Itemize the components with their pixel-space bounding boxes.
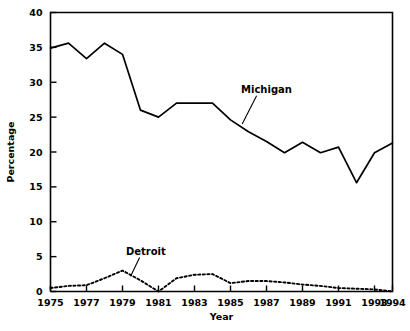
x-axis-tick-labels: 1975197719791981198319851987198919911993… <box>37 297 406 308</box>
x-axis-ticks <box>51 286 393 292</box>
y-tick-label: 10 <box>29 216 43 227</box>
series-group <box>51 43 393 291</box>
annotation-group: Michigan Detroit <box>126 84 292 276</box>
x-tick-label: 1977 <box>73 297 99 308</box>
x-tick-label: 1983 <box>181 297 207 308</box>
x-tick-label: 1989 <box>289 297 315 308</box>
y-axis-tick-labels: 0510152025303540 <box>29 7 43 297</box>
chart-canvas: 0510152025303540 19751977197919811983198… <box>0 0 410 331</box>
line-chart: 0510152025303540 19751977197919811983198… <box>0 0 410 331</box>
x-tick-label: 1987 <box>253 297 279 308</box>
x-tick-label: 1991 <box>325 297 351 308</box>
detroit-leader-line <box>131 258 140 277</box>
y-tick-label: 25 <box>29 112 42 123</box>
y-tick-label: 0 <box>36 286 43 297</box>
y-tick-label: 40 <box>29 7 43 18</box>
x-tick-label: 1994 <box>379 297 406 308</box>
y-tick-label: 5 <box>36 251 43 262</box>
y-tick-label: 20 <box>29 147 43 158</box>
y-tick-label: 30 <box>29 77 43 88</box>
x-tick-label: 1985 <box>217 297 243 308</box>
x-axis-title: Year <box>209 311 234 322</box>
y-axis-title: Percentage <box>5 121 16 182</box>
x-tick-label: 1979 <box>109 297 135 308</box>
michigan-series-label: Michigan <box>241 84 292 95</box>
detroit-series-label: Detroit <box>126 246 166 257</box>
michigan-leader-line <box>242 96 256 124</box>
y-axis-ticks <box>51 13 57 292</box>
x-tick-label: 1981 <box>145 297 171 308</box>
y-tick-label: 15 <box>29 181 42 192</box>
series-line-michigan <box>51 43 393 183</box>
x-tick-label: 1975 <box>37 297 63 308</box>
y-tick-label: 35 <box>29 42 42 53</box>
series-line-detroit <box>51 271 393 292</box>
